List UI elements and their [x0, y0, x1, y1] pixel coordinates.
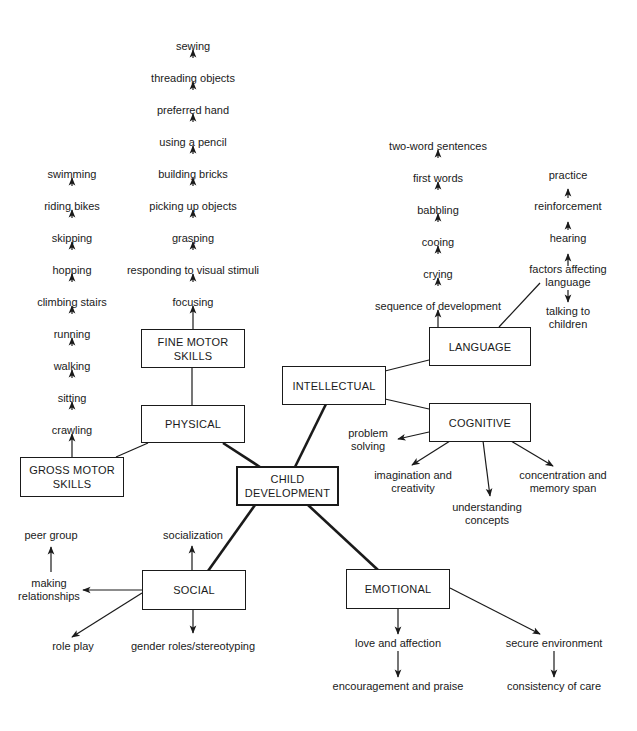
peer-group-label: peer group: [24, 529, 77, 542]
understanding-label: understanding concepts: [452, 501, 522, 527]
love-affection-label: love and affection: [355, 637, 441, 650]
problem-solving-line2: solving: [348, 440, 388, 453]
language-factors-line2: language: [529, 276, 606, 289]
gross-motor-step: walking: [54, 360, 91, 373]
language-box: LANGUAGE: [429, 327, 531, 366]
fine-motor-step: grasping: [172, 232, 214, 245]
fine-motor-step: responding to visual stimuli: [127, 264, 259, 277]
talking-to-children-label: talking to children: [546, 305, 590, 331]
center-label-line1: CHILD: [245, 472, 330, 486]
secure-environment-label: secure environment: [506, 637, 603, 650]
language-factor: practice: [549, 169, 588, 182]
cognitive-box: COGNITIVE: [429, 403, 531, 442]
social-box: SOCIAL: [142, 570, 246, 610]
making-relationships-line2: relationships: [18, 590, 80, 603]
language-factors-label: factors affecting language: [529, 263, 606, 289]
fine-motor-step: threading objects: [151, 72, 235, 85]
language-step: two-word sentences: [389, 140, 487, 153]
fine-motor-line1: FINE MOTOR: [158, 335, 229, 349]
making-relationships-line1: making: [18, 577, 80, 590]
language-step: first words: [413, 172, 463, 185]
understanding-line1: understanding: [452, 501, 522, 514]
imagination-line2: creativity: [374, 482, 452, 495]
imagination-label: imagination and creativity: [374, 469, 452, 495]
emotional-box: EMOTIONAL: [346, 569, 450, 609]
language-step: sequence of development: [375, 300, 501, 313]
fine-motor-step: sewing: [176, 40, 210, 53]
language-factors-line1: factors affecting: [529, 263, 606, 276]
talking-line1: talking to: [546, 305, 590, 318]
language-label: LANGUAGE: [449, 340, 512, 354]
gross-motor-step: sitting: [58, 392, 87, 405]
gross-motor-box: GROSS MOTORSKILLS: [20, 457, 124, 497]
fine-motor-step: focusing: [173, 296, 214, 309]
social-label: SOCIAL: [173, 583, 215, 597]
gender-roles-label: gender roles/stereotyping: [131, 640, 255, 653]
language-step: babbling: [417, 204, 459, 217]
socialization-label: socialization: [163, 529, 223, 542]
concentration-label: concentration and memory span: [519, 469, 606, 495]
gross-motor-line1: GROSS MOTOR: [29, 463, 115, 477]
fine-motor-step: picking up objects: [149, 200, 236, 213]
gross-motor-step: skipping: [52, 232, 92, 245]
language-step: cooing: [422, 236, 454, 249]
child-development-box: CHILDDEVELOPMENT: [236, 466, 339, 506]
language-factor: hearing: [550, 232, 587, 245]
role-play-label: role play: [52, 640, 94, 653]
language-factor: reinforcement: [534, 200, 601, 213]
child-development-diagram: CHILDDEVELOPMENT PHYSICAL FINE MOTORSKIL…: [0, 0, 637, 731]
center-label-line2: DEVELOPMENT: [245, 486, 330, 500]
cognitive-label: COGNITIVE: [449, 416, 511, 430]
understanding-line2: concepts: [452, 514, 522, 527]
concentration-line2: memory span: [519, 482, 606, 495]
making-relationships-label: making relationships: [18, 577, 80, 603]
problem-solving-line1: problem: [348, 427, 388, 440]
problem-solving-label: problem solving: [348, 427, 388, 453]
physical-label: PHYSICAL: [165, 417, 221, 431]
intellectual-label: INTELLECTUAL: [292, 379, 375, 393]
imagination-line1: imagination and: [374, 469, 452, 482]
fine-motor-step: building bricks: [158, 168, 228, 181]
gross-motor-step: crawling: [52, 424, 92, 437]
fine-motor-step: preferred hand: [157, 104, 229, 117]
gross-motor-step: hopping: [52, 264, 91, 277]
fine-motor-box: FINE MOTORSKILLS: [141, 329, 245, 368]
emotional-label: EMOTIONAL: [365, 582, 432, 596]
concentration-line1: concentration and: [519, 469, 606, 482]
gross-motor-step: riding bikes: [44, 200, 100, 213]
gross-motor-line2: SKILLS: [29, 477, 115, 491]
gross-motor-step: climbing stairs: [37, 296, 107, 309]
language-step: crying: [423, 268, 452, 281]
fine-motor-line2: SKILLS: [158, 349, 229, 363]
physical-box: PHYSICAL: [141, 405, 245, 443]
gross-motor-step: swimming: [48, 168, 97, 181]
talking-line2: children: [546, 318, 590, 331]
consistency-of-care-label: consistency of care: [507, 680, 601, 693]
intellectual-box: INTELLECTUAL: [282, 366, 386, 405]
fine-motor-step: using a pencil: [159, 136, 226, 149]
encouragement-label: encouragement and praise: [333, 680, 464, 693]
gross-motor-step: running: [54, 328, 91, 341]
